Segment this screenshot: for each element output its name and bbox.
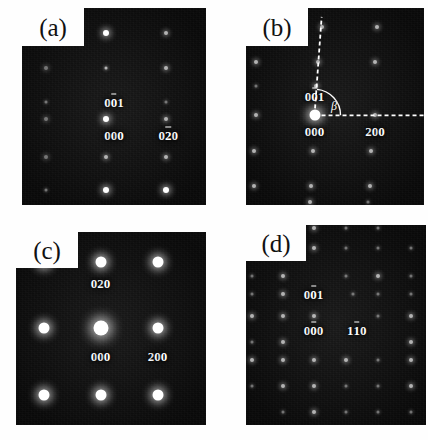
diffraction-spot	[376, 274, 380, 278]
miller-index-label: 000	[91, 350, 111, 363]
diffraction-spot	[281, 384, 285, 388]
diffraction-spot	[104, 67, 107, 70]
diffraction-spot	[409, 340, 413, 344]
diffraction-spot	[93, 320, 108, 335]
diffraction-spot	[352, 293, 355, 296]
diffraction-spot	[44, 155, 48, 159]
panel-letter-a: (a)	[22, 8, 84, 46]
diffraction-spot	[104, 155, 108, 159]
diffraction-spot	[281, 274, 285, 278]
diffraction-spot	[312, 358, 316, 362]
miller-index-label: 000	[104, 129, 124, 142]
diffraction-spot	[44, 66, 48, 70]
diffraction-spot	[312, 314, 316, 318]
miller-index-label: 020	[91, 277, 111, 290]
diffraction-spot	[38, 390, 49, 401]
diffraction-spot	[409, 247, 412, 250]
diffraction-spot	[103, 187, 109, 193]
diffraction-spot	[409, 384, 413, 388]
diffraction-spot	[95, 390, 106, 401]
diffraction-panel-d: 001000110(d)	[246, 225, 426, 425]
panel-letter-text: (d)	[261, 231, 290, 256]
diffraction-spot	[377, 315, 380, 318]
diffraction-spot	[152, 390, 163, 401]
diffraction-spot	[251, 293, 254, 296]
diffraction-spot	[344, 385, 347, 388]
diffraction-spot	[377, 359, 380, 362]
diffraction-spot	[250, 314, 254, 318]
guide-line-vertical	[315, 17, 322, 116]
diffraction-spot	[152, 322, 163, 333]
diffraction-spot	[312, 384, 316, 388]
diffraction-spot	[377, 385, 380, 388]
miller-index-label: 110	[347, 324, 367, 337]
panel-letter-c: (c)	[16, 232, 78, 268]
diffraction-spot	[281, 314, 285, 318]
diffraction-panel-c: 020000200(c)	[16, 232, 206, 425]
panel-letter-text: (c)	[33, 238, 61, 263]
diffraction-spot	[281, 292, 285, 296]
panel-letter-b: (b)	[246, 8, 308, 46]
diffraction-spot	[409, 314, 413, 318]
diffraction-figure: 001000020(a)001000200β(b)020000200(c)001…	[0, 0, 428, 440]
diffraction-panel-b: 001000200β(b)	[246, 8, 424, 205]
diffraction-spot	[152, 256, 163, 267]
diffraction-spot	[312, 246, 316, 250]
diffraction-spot	[165, 100, 168, 103]
diffraction-spot	[103, 30, 109, 36]
panel-letter-d: (d)	[246, 225, 306, 261]
diffraction-spot	[344, 358, 348, 362]
diffraction-spot	[409, 411, 412, 414]
diffraction-spot	[377, 247, 380, 250]
miller-index-label: 000	[304, 324, 324, 337]
diffraction-spot	[164, 66, 168, 70]
diffraction-spot	[344, 247, 347, 250]
diffraction-spot	[164, 117, 168, 121]
diffraction-spot	[281, 340, 285, 344]
panel-letter-text: (a)	[39, 15, 67, 40]
diffraction-spot	[44, 100, 47, 103]
diffraction-spot	[281, 411, 284, 414]
diffraction-spot	[344, 227, 347, 230]
miller-index-label: 020	[159, 129, 179, 142]
diffraction-spot	[250, 358, 254, 362]
diffraction-spot	[251, 275, 254, 278]
diffraction-spot	[44, 117, 48, 121]
miller-index-label: 001	[104, 95, 124, 108]
diffraction-spot	[251, 385, 254, 388]
diffraction-spot	[312, 226, 316, 230]
diffraction-spot	[38, 322, 49, 333]
panel-letter-text: (b)	[262, 15, 291, 40]
miller-index-label: 200	[148, 350, 168, 363]
diffraction-spot	[164, 155, 168, 159]
diffraction-spot	[251, 341, 254, 344]
diffraction-spot	[409, 275, 412, 278]
diffraction-spot	[281, 358, 285, 362]
diffraction-spot	[409, 358, 413, 362]
diffraction-spot	[95, 256, 106, 267]
diffraction-spot	[377, 227, 380, 230]
diffraction-spot	[163, 187, 169, 193]
diffraction-spot	[164, 31, 168, 35]
diffraction-spot	[312, 410, 316, 414]
diffraction-spot	[44, 189, 47, 192]
miller-index-label: 001	[304, 288, 324, 301]
diffraction-spot	[409, 293, 412, 296]
diffraction-spot	[344, 275, 347, 278]
diffraction-spot	[377, 293, 380, 296]
diffraction-spot	[377, 411, 380, 414]
diffraction-panel-a: 001000020(a)	[22, 8, 206, 205]
diffraction-spot	[344, 411, 347, 414]
diffraction-spot	[103, 116, 109, 122]
angle-beta-label: β	[331, 98, 337, 113]
